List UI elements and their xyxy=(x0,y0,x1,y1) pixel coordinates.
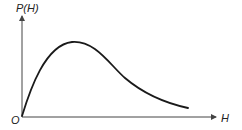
x-axis-label: H xyxy=(221,112,229,124)
chart-svg: P(H) H O xyxy=(0,0,242,130)
distribution-chart: P(H) H O xyxy=(0,0,242,130)
origin-label: O xyxy=(11,114,20,126)
distribution-curve xyxy=(22,42,188,116)
y-axis-label: P(H) xyxy=(16,2,39,14)
